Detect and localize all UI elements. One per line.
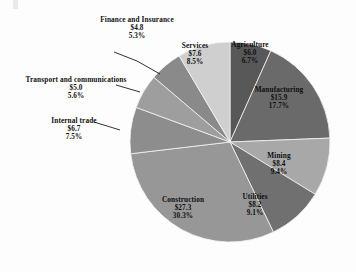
slice-label-finance-name: Finance and Insurance: [76, 16, 198, 24]
slice-label-manufacturing-name: Manufacturing: [246, 86, 312, 94]
slice-label-transport: Transport and communications $5.0 5.6%: [8, 76, 144, 100]
leader-line-finance: [114, 52, 160, 74]
slice-label-internal-trade: Internal trade $6.7 7.5%: [34, 117, 114, 141]
slice-label-agriculture-percent: 6.7%: [222, 57, 278, 65]
slice-label-manufacturing-percent: 17.7%: [246, 102, 312, 110]
slice-label-mining-value: $8.4: [252, 160, 306, 168]
slice-label-manufacturing: Manufacturing $15.9 17.7%: [246, 86, 312, 110]
slice-label-internal-trade-name: Internal trade: [34, 117, 114, 125]
slice-label-finance-percent: 5.3%: [76, 32, 198, 40]
slice-label-transport-percent: 5.6%: [8, 92, 144, 100]
slice-label-services-name: Services: [168, 42, 222, 50]
slice-label-finance: Finance and Insurance $4.8 5.3%: [76, 16, 198, 40]
slice-label-services-value: $7.6: [168, 50, 222, 58]
chart-canvas: Services $7.6 8.5% Agriculture $6.0 6.7%…: [0, 0, 356, 272]
slice-label-construction: Construction $27.3 30.3%: [148, 196, 218, 220]
slice-label-services-percent: 8.5%: [168, 58, 222, 66]
slice-label-mining-percent: 9.4%: [252, 168, 306, 176]
slice-label-utilities-name: Utilities: [228, 193, 282, 201]
slice-label-services: Services $7.6 8.5%: [168, 42, 222, 66]
slice-label-utilities-percent: 9.1%: [228, 209, 282, 217]
slice-label-internal-trade-value: $6.7: [34, 125, 114, 133]
slice-label-construction-percent: 30.3%: [148, 212, 218, 220]
slice-label-utilities-value: $8.2: [228, 201, 282, 209]
slice-label-finance-value: $4.8: [76, 24, 198, 32]
slice-label-manufacturing-value: $15.9: [246, 94, 312, 102]
slice-label-transport-value: $5.0: [8, 84, 144, 92]
slice-label-internal-trade-percent: 7.5%: [34, 133, 114, 141]
slice-label-agriculture-value: $6.0: [222, 49, 278, 57]
slice-label-transport-name: Transport and communications: [8, 76, 144, 84]
slice-label-agriculture-name: Agriculture: [222, 41, 278, 49]
slice-label-mining-name: Mining: [252, 152, 306, 160]
slice-label-utilities: Utilities $8.2 9.1%: [228, 193, 282, 217]
slice-label-agriculture: Agriculture $6.0 6.7%: [222, 41, 278, 65]
slice-label-construction-value: $27.3: [148, 204, 218, 212]
slice-label-construction-name: Construction: [148, 196, 218, 204]
slice-label-mining: Mining $8.4 9.4%: [252, 152, 306, 176]
pie-chart: Services $7.6 8.5% Agriculture $6.0 6.7%…: [0, 0, 356, 272]
